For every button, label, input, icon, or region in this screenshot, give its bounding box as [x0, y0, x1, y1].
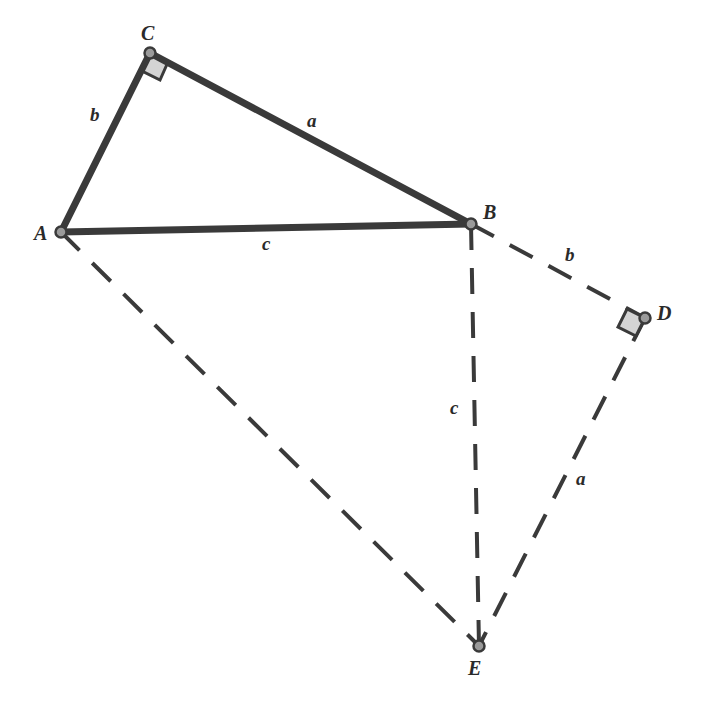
label-side-AC: b — [90, 104, 100, 125]
point-D — [640, 313, 651, 324]
label-side-AB: c — [262, 233, 271, 254]
segment-AC — [61, 53, 150, 232]
segment-CB — [150, 53, 471, 224]
label-vertex-C: C — [141, 22, 155, 44]
label-vertex-D: D — [656, 302, 671, 324]
label-vertex-B: B — [482, 201, 496, 223]
point-B — [466, 219, 477, 230]
label-side-BD: b — [565, 244, 575, 265]
label-vertex-E: E — [467, 657, 481, 679]
segment-AB — [61, 224, 471, 232]
label-side-BE: c — [450, 397, 459, 418]
points — [56, 48, 651, 652]
label-vertex-A: A — [32, 222, 47, 244]
segment-AE — [61, 232, 479, 646]
pythagorean-diagram: C A B D E b a c b c a — [0, 0, 701, 709]
label-side-DE: a — [576, 468, 586, 489]
point-A — [56, 227, 67, 238]
point-E — [474, 641, 485, 652]
dashed-lines — [61, 224, 645, 646]
point-C — [145, 48, 156, 59]
segment-DE — [479, 318, 645, 646]
segment-BE — [471, 224, 479, 646]
segment-BD — [471, 224, 645, 318]
label-side-CB: a — [307, 110, 317, 131]
triangle-ABC — [61, 53, 471, 232]
